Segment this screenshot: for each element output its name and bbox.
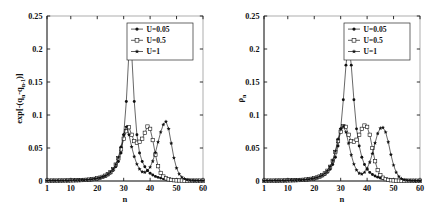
left-plot-svg: 110203040506000.050.10.150.20.25nexp[-(q… xyxy=(0,0,217,224)
x-tick-label: 50 xyxy=(389,184,397,193)
y-tick-label: 0 xyxy=(255,177,259,186)
y-tick-label: 0.2 xyxy=(32,45,42,54)
data-point-marker xyxy=(133,100,136,103)
data-point-marker xyxy=(350,64,353,67)
legend-label: U=0.05 xyxy=(147,25,170,34)
data-point-marker xyxy=(125,100,128,103)
legend[interactable]: U=0.05U=0.5U=1 xyxy=(344,23,410,60)
x-tick-label: 20 xyxy=(310,184,318,193)
legend-label: U=0.5 xyxy=(147,36,167,45)
y-axis-title: ρn xyxy=(236,94,247,102)
y-tick-label: 0.05 xyxy=(28,144,42,153)
data-point-marker xyxy=(376,168,379,171)
x-tick-label: 60 xyxy=(416,184,424,193)
legend-marker xyxy=(135,38,139,42)
y-tick-label: 0.1 xyxy=(32,111,42,120)
data-point-marker xyxy=(357,133,360,136)
x-axis-title: n xyxy=(340,194,345,204)
data-point-marker xyxy=(368,133,371,136)
data-point-marker xyxy=(360,127,363,130)
data-point-marker xyxy=(365,125,368,128)
legend[interactable]: U=0.05U=0.5U=1 xyxy=(127,23,193,60)
data-point-marker xyxy=(151,138,154,141)
data-point-marker xyxy=(127,126,130,129)
y-axis-title: exp[-(qn-qn-1)] xyxy=(15,73,26,124)
data-point-marker xyxy=(151,174,154,177)
data-point-marker xyxy=(143,165,146,168)
data-point-marker xyxy=(156,164,159,167)
x-tick-label: 10 xyxy=(284,184,292,193)
data-point-marker xyxy=(140,137,143,140)
x-tick-label: 1 xyxy=(262,184,266,193)
data-point-marker xyxy=(355,127,358,130)
figure-container: 110203040506000.050.10.150.20.25nexp[-(q… xyxy=(0,0,434,224)
data-point-marker xyxy=(345,64,348,67)
x-tick-label: 10 xyxy=(67,184,75,193)
y-tick-label: 0.15 xyxy=(28,78,42,87)
data-point-marker xyxy=(358,145,361,148)
data-point-marker xyxy=(360,156,363,159)
data-point-marker xyxy=(363,163,366,166)
data-point-marker xyxy=(159,171,162,174)
data-point-marker xyxy=(374,175,377,178)
data-point-marker xyxy=(373,160,376,163)
data-point-marker xyxy=(342,98,345,101)
data-point-marker xyxy=(352,98,355,101)
y-tick-label: 0.25 xyxy=(28,12,42,21)
data-point-marker xyxy=(130,133,133,136)
x-tick-label: 60 xyxy=(199,184,207,193)
data-point-marker xyxy=(347,133,350,136)
chart-panel-right: 110203040506000.050.10.150.20.25nρnU=0.0… xyxy=(217,0,434,224)
chart-panel-left: 110203040506000.050.10.150.20.25nexp[-(q… xyxy=(0,0,217,224)
data-point-marker xyxy=(143,131,146,134)
legend-label: U=0.5 xyxy=(364,36,384,45)
legend-marker xyxy=(352,38,356,42)
legend-label: U=1 xyxy=(364,47,378,56)
right-plot-svg: 110203040506000.050.10.150.20.25nρnU=0.0… xyxy=(217,0,434,224)
data-point-marker xyxy=(154,175,157,178)
data-point-marker xyxy=(157,176,160,179)
data-point-marker xyxy=(149,172,152,175)
data-point-marker xyxy=(138,152,141,155)
legend-marker xyxy=(135,28,138,31)
data-point-marker xyxy=(371,173,374,176)
x-tick-label: 40 xyxy=(146,184,154,193)
x-tick-label: 50 xyxy=(172,184,180,193)
x-tick-label: 40 xyxy=(363,184,371,193)
y-tick-label: 0.05 xyxy=(245,144,259,153)
y-axis-title-text: exp[-(qn-qn-1)] xyxy=(15,73,26,124)
y-tick-label: 0.2 xyxy=(249,45,259,54)
data-point-marker xyxy=(135,133,138,136)
legend-marker xyxy=(352,28,355,31)
y-axis-title-text: ρn xyxy=(236,94,247,102)
legend-label: U=0.05 xyxy=(364,25,387,34)
x-tick-label: 20 xyxy=(93,184,101,193)
x-tick-label: 1 xyxy=(45,184,49,193)
x-tick-label: 30 xyxy=(120,184,128,193)
x-tick-label: 30 xyxy=(337,184,345,193)
data-point-marker xyxy=(368,171,371,174)
y-tick-label: 0.1 xyxy=(249,111,259,120)
legend-label: U=1 xyxy=(147,47,161,56)
x-axis-title: n xyxy=(123,194,128,204)
data-point-marker xyxy=(148,127,151,130)
y-tick-label: 0.15 xyxy=(245,78,259,87)
y-tick-label: 0.25 xyxy=(245,12,259,21)
data-point-marker xyxy=(355,138,358,141)
y-tick-label: 0 xyxy=(38,177,42,186)
data-point-marker xyxy=(141,160,144,163)
